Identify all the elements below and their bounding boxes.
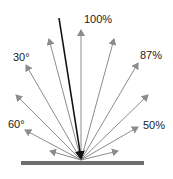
reflected-ray-arrow bbox=[81, 63, 138, 160]
intensity-50-label: 50% bbox=[143, 119, 165, 131]
reflected-rays-group bbox=[16, 30, 148, 160]
diffuse-reflection-diagram: 100% 30° 60° 87% 50% bbox=[0, 0, 173, 179]
intensity-87-label: 87% bbox=[140, 49, 162, 61]
reflected-ray-arrow bbox=[81, 39, 114, 160]
normal-intensity-label: 100% bbox=[84, 13, 112, 25]
angle-30-label: 30° bbox=[13, 51, 30, 63]
reflected-ray-arrow bbox=[81, 151, 118, 160]
angle-60-label: 60° bbox=[8, 118, 25, 130]
